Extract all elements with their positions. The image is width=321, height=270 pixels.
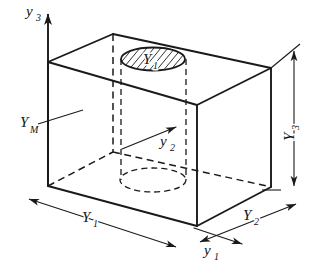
dimension-Y3-extension-top <box>271 44 300 68</box>
dimension-Y1-label: Y1 <box>82 209 98 229</box>
dimension-Y3: Y3 <box>262 44 301 190</box>
dimension-Y1-line <box>29 199 176 247</box>
top-edge-left-back <box>48 34 113 62</box>
dimension-Y1: Y1 <box>29 199 176 247</box>
axis-y1-label: y1 <box>202 242 219 262</box>
hidden-edge-bottom-left-back <box>48 152 113 186</box>
axis-y3: y3 <box>24 3 48 186</box>
bottom-edge-left-front <box>48 186 197 226</box>
top-edge-right-front <box>197 68 271 105</box>
top-edge-front-left <box>48 62 197 105</box>
isometric-block-diagram: Y1 y3 y2 y1 Y1 <box>0 0 321 270</box>
technical-drawing-figure: Y1 y3 y2 y1 Y1 <box>0 0 321 270</box>
dimension-Y3-label: Y3 <box>281 125 301 141</box>
hole-cylinder-hidden <box>120 59 186 192</box>
axis-y2: y2 <box>122 127 176 153</box>
callout-YM: YM <box>20 110 83 135</box>
axis-y3-label: y3 <box>24 3 41 23</box>
callout-YM-label: YM <box>20 114 39 135</box>
dimension-Y2: Y2 <box>200 204 296 242</box>
hole-bottom-ellipse <box>120 168 186 192</box>
callout-YM-leader <box>38 110 83 124</box>
axis-y1: y1 <box>194 228 242 262</box>
bottom-edge-front-right <box>197 187 271 226</box>
axis-y2-line <box>122 127 176 149</box>
axis-y2-label: y2 <box>158 133 175 153</box>
